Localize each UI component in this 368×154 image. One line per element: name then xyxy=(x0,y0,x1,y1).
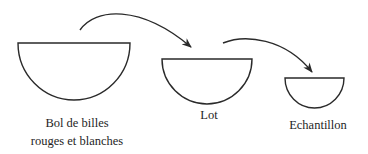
label-bowl: Bol de billes rouges et blanches xyxy=(31,114,123,150)
label-bowl-line1: Bol de billes xyxy=(31,114,123,132)
label-sample: Echantillon xyxy=(289,116,347,134)
arrow-bowl-to-lot xyxy=(80,14,191,47)
label-lot: Lot xyxy=(200,106,217,124)
label-bowl-line2: rouges et blanches xyxy=(31,132,123,150)
arrow-lot-to-sample xyxy=(223,39,312,72)
bowl-large-shape xyxy=(18,43,130,100)
bowl-lot-shape xyxy=(162,59,252,104)
bowl-sample-shape xyxy=(285,78,344,108)
